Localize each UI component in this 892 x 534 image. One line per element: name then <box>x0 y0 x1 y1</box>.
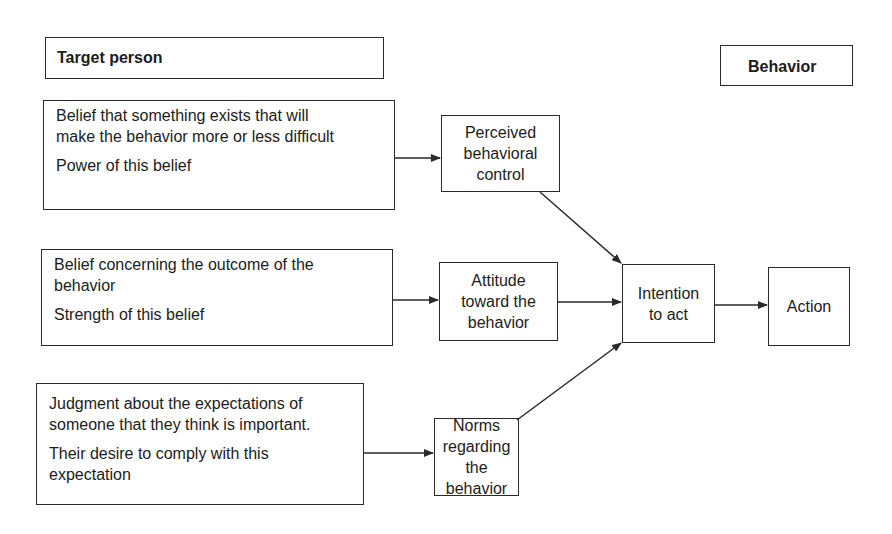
arrow-pbc-to-intention <box>540 192 621 263</box>
arrow-layer <box>0 0 892 534</box>
arrow-norms-to-intention <box>517 343 621 420</box>
